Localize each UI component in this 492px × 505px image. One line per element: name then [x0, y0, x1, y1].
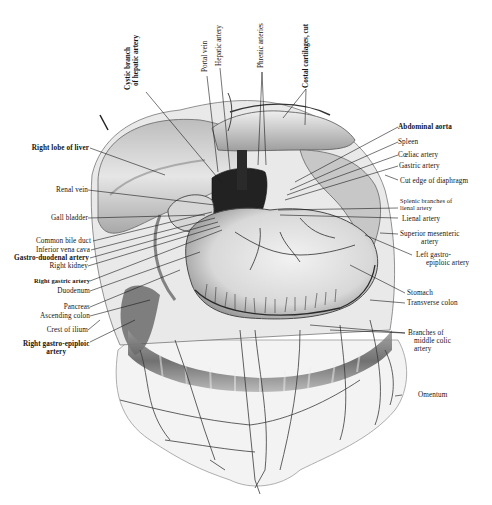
label-renal-vein: Renal vein [56, 186, 88, 194]
label-right-gastric-artery: Right gastric artery [34, 277, 90, 285]
label-line: Cystic branch [124, 35, 132, 90]
label-phrenic-arteries: Phrenic arteries [257, 23, 265, 68]
label-lienal-artery: Lienal artery [402, 215, 440, 223]
label-gastric-artery: Gastric artery [399, 162, 440, 170]
label-omentum: Omentum [418, 391, 447, 399]
label-line: Superior mesenteric [400, 230, 460, 238]
label-costal-cartilages: Costal cartilages, cut [302, 24, 310, 88]
label-hepatic-artery: Hepatic artery [215, 25, 223, 66]
anatomy-figure: Cystic branch of hepatic artery Portal v… [0, 0, 492, 505]
label-line: artery [408, 345, 451, 353]
label-line: artery [23, 348, 89, 356]
label-line: middle colic [408, 337, 451, 345]
label-right-gastro-epiploic-artery: Right gastro-epiploic artery [23, 340, 89, 356]
label-branches-of-middle-colic: Branches of middle colic artery [408, 329, 451, 353]
label-crest-of-ilium: Crest of ilium [47, 326, 88, 334]
label-inferior-vena-cava: Inferior vena cava [36, 246, 90, 254]
label-stomach: Stomach [407, 289, 433, 297]
stomach-shape [186, 208, 378, 319]
label-ascending-colon: Ascending colon [40, 312, 90, 320]
label-duodenum: Duodenum [57, 287, 90, 295]
label-pancreas: Pancreas [64, 303, 90, 311]
label-right-lobe-of-liver: Right lobe of liver [32, 144, 89, 152]
label-splenic-branches: Splenic branches of lienal artery [400, 198, 452, 212]
label-line: artery [400, 238, 460, 246]
label-transverse-colon: Transverse colon [407, 299, 458, 307]
label-left-gastro-epiploic-artery: Left gastro- epiploic artery [416, 251, 469, 267]
label-gall-bladder: Gall bladder [51, 214, 88, 222]
label-superior-mesenteric-artery: Superior mesenteric artery [400, 230, 460, 246]
costal-cartilage-shape [212, 111, 355, 151]
label-common-bile-duct: Common bile duct [36, 237, 91, 245]
label-gastro-duodenal-artery: Gastro-duodenal artery [14, 254, 89, 262]
label-line: Branches of [408, 329, 451, 337]
label-line: of hepatic artery [132, 35, 140, 90]
label-portal-vein: Portal vein [201, 41, 209, 72]
label-line: lienal artery [400, 205, 452, 212]
label-cystic-branch: Cystic branch of hepatic artery [124, 35, 140, 90]
label-coeliac-artery: Cœliac artery [398, 151, 438, 159]
label-line: epiploic artery [416, 259, 469, 267]
label-line: Right gastro-epiploic [23, 340, 89, 348]
label-spleen: Spleen [398, 138, 418, 146]
label-abdominal-aorta: Abdominal aorta [398, 123, 452, 131]
label-cut-edge-of-diaphragm: Cut edge of diaphragm [400, 177, 468, 185]
label-right-kidney: Right kidney [49, 262, 88, 270]
label-line: Left gastro- [416, 251, 469, 259]
